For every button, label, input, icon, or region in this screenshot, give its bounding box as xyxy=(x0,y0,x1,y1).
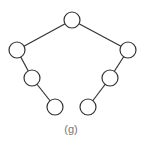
tree-edge xyxy=(72,20,128,50)
tree-edges xyxy=(17,20,128,107)
tree-node-l1 xyxy=(9,42,25,58)
tree-node-l2 xyxy=(24,70,40,86)
tree-node-root xyxy=(64,12,80,28)
tree-edge xyxy=(17,20,72,50)
tree-nodes xyxy=(9,12,136,115)
diagram-caption: (g) xyxy=(64,123,77,135)
tree-node-r3 xyxy=(80,99,96,115)
tree-node-l3 xyxy=(47,99,63,115)
tree-node-r2 xyxy=(102,70,118,86)
tree-node-r1 xyxy=(120,42,136,58)
